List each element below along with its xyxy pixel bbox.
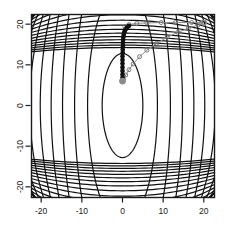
y-tick-label: 20 <box>15 19 25 29</box>
dense-iterate-cluster-marker <box>121 73 124 76</box>
x-tick-label: 0 <box>120 206 125 216</box>
dense-iterate-cluster-marker <box>127 24 130 27</box>
contour-plot-figure: -20-1001020 -20-1001020 <box>0 0 229 237</box>
path-start-point <box>120 78 126 84</box>
dense-iterate-cluster-marker <box>121 66 124 69</box>
y-tick-label: -20 <box>15 180 25 193</box>
y-tick-label: 0 <box>15 103 25 108</box>
x-tick-label: 10 <box>158 206 168 216</box>
dense-iterate-cluster-marker <box>121 55 124 58</box>
y-tick-label: -10 <box>15 140 25 153</box>
x-tick-label: -10 <box>76 206 89 216</box>
x-tick-label: -20 <box>35 206 48 216</box>
x-tick-label: 20 <box>199 206 209 216</box>
plot-canvas: -20-1001020 -20-1001020 <box>0 0 229 237</box>
dense-iterate-cluster-marker <box>121 58 124 61</box>
dense-iterate-cluster-marker <box>121 69 124 72</box>
y-tick-label: 10 <box>15 60 25 70</box>
dense-iterate-cluster-marker <box>121 62 124 65</box>
